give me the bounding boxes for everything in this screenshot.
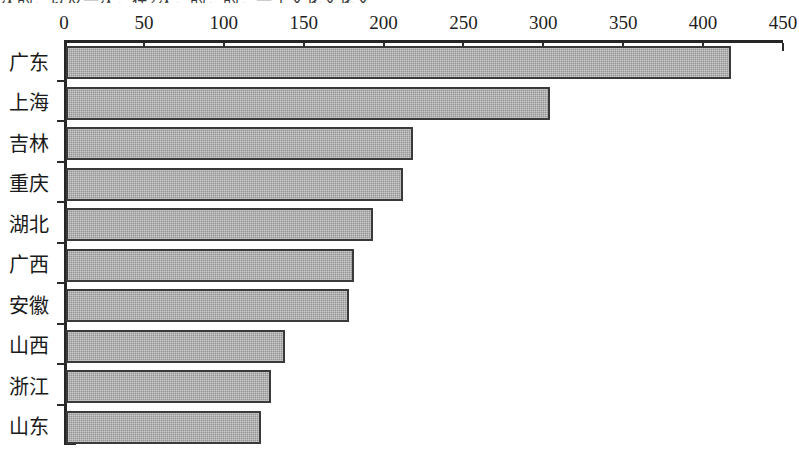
y-axis-tick-mark xyxy=(57,323,65,325)
x-axis-tick-label: 450 xyxy=(769,12,798,34)
x-axis-tick-label: 0 xyxy=(59,12,69,34)
y-axis-category-label: 广东 xyxy=(0,52,58,74)
bar xyxy=(66,46,731,79)
x-axis-tick-label: 400 xyxy=(689,12,718,34)
x-axis-tick-label: 100 xyxy=(210,12,239,34)
bar xyxy=(66,411,261,444)
bar xyxy=(66,370,271,403)
y-axis-tick-mark xyxy=(57,201,65,203)
bar xyxy=(66,168,403,201)
y-axis-tick-mark xyxy=(57,242,65,244)
bar xyxy=(66,208,373,241)
x-axis-tick-label: 350 xyxy=(609,12,638,34)
y-axis-category-label: 重庆 xyxy=(0,173,58,195)
y-axis-category-label: 山西 xyxy=(0,335,58,357)
y-axis-tick-mark xyxy=(57,120,65,122)
x-axis-tick-labels: 050100150200250300350400450 xyxy=(0,12,799,36)
y-axis-tick-mark xyxy=(57,161,65,163)
y-axis-category-label: 吉林 xyxy=(0,133,58,155)
y-axis-category-label: 浙江 xyxy=(0,376,58,398)
x-axis-tick-label: 250 xyxy=(449,12,478,34)
y-axis-tick-mark xyxy=(57,80,65,82)
y-axis-category-label: 安徽 xyxy=(0,295,58,317)
x-axis-tick-label: 200 xyxy=(369,12,398,34)
plot-area xyxy=(64,40,783,445)
y-axis-category-label: 广西 xyxy=(0,254,58,276)
bar xyxy=(66,289,349,322)
bar xyxy=(66,87,550,120)
x-axis-tick-label: 300 xyxy=(529,12,558,34)
x-axis-tick-label: 50 xyxy=(134,12,153,34)
y-axis-tick-mark xyxy=(57,282,65,284)
y-axis-category-label: 湖北 xyxy=(0,214,58,236)
y-axis-category-label: 上海 xyxy=(0,92,58,114)
y-axis-tick-mark xyxy=(57,404,65,406)
bar xyxy=(66,127,413,160)
clipped-text-remnant: 次的，以及一次，在2次，的，的，一个文化文化文 xyxy=(0,0,799,3)
y-axis-tick-mark xyxy=(57,363,65,365)
y-axis-category-label: 山东 xyxy=(0,416,58,438)
x-axis-line xyxy=(64,40,783,43)
bar xyxy=(66,330,285,363)
x-axis-tick-label: 150 xyxy=(289,12,318,34)
x-axis-tick-mark xyxy=(782,43,784,51)
bar xyxy=(66,249,354,282)
bar-chart: 次的，以及一次，在2次，的，的，一个文化文化文 0501001502002503… xyxy=(0,0,799,461)
